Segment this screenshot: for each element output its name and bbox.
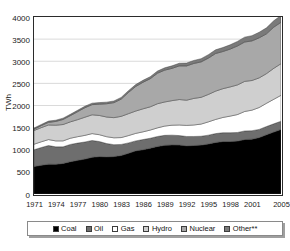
- x-tick-label: 1992: [179, 200, 196, 209]
- x-axis-tick-labels: 1971197419771980198319861989199219951998…: [0, 0, 290, 251]
- x-tick-label: 1974: [48, 200, 65, 209]
- legend-label: Coal: [61, 224, 76, 233]
- legend-swatch-icon: [224, 226, 230, 232]
- legend-item-hydro[interactable]: Hydro: [143, 224, 172, 233]
- legend-item-coal[interactable]: Coal: [53, 224, 77, 233]
- stacked-area-chart: TWh 40003500300025002000150010005000 197…: [0, 0, 290, 251]
- legend-item-gas[interactable]: Gas: [112, 224, 134, 233]
- legend-swatch-icon: [112, 226, 118, 232]
- chart-legend: CoalOilGasHydroNuclearOther**: [27, 221, 283, 236]
- x-tick-label: 1995: [201, 200, 218, 209]
- legend-item-nuclear[interactable]: Nuclear: [181, 224, 215, 233]
- legend-label: Oil: [94, 224, 103, 233]
- legend-label: Hydro: [152, 224, 172, 233]
- x-tick-label: 1998: [222, 200, 239, 209]
- x-tick-label: 1986: [135, 200, 152, 209]
- legend-label: Gas: [121, 224, 135, 233]
- x-tick-label: 1983: [113, 200, 130, 209]
- legend-swatch-icon: [143, 226, 149, 232]
- legend-label: Nuclear: [189, 224, 215, 233]
- x-tick-label: 2001: [244, 200, 261, 209]
- legend-swatch-icon: [53, 226, 59, 232]
- legend-swatch-icon: [181, 226, 187, 232]
- x-tick-label: 1989: [157, 200, 174, 209]
- legend-swatch-icon: [86, 226, 92, 232]
- legend-item-other[interactable]: Other**: [224, 224, 257, 233]
- x-tick-label: 1980: [92, 200, 109, 209]
- x-tick-label: 1977: [70, 200, 87, 209]
- x-tick-label: 1971: [26, 200, 43, 209]
- legend-item-oil[interactable]: Oil: [86, 224, 104, 233]
- x-tick-label: 2005: [273, 200, 290, 209]
- legend-label: Other**: [233, 224, 258, 233]
